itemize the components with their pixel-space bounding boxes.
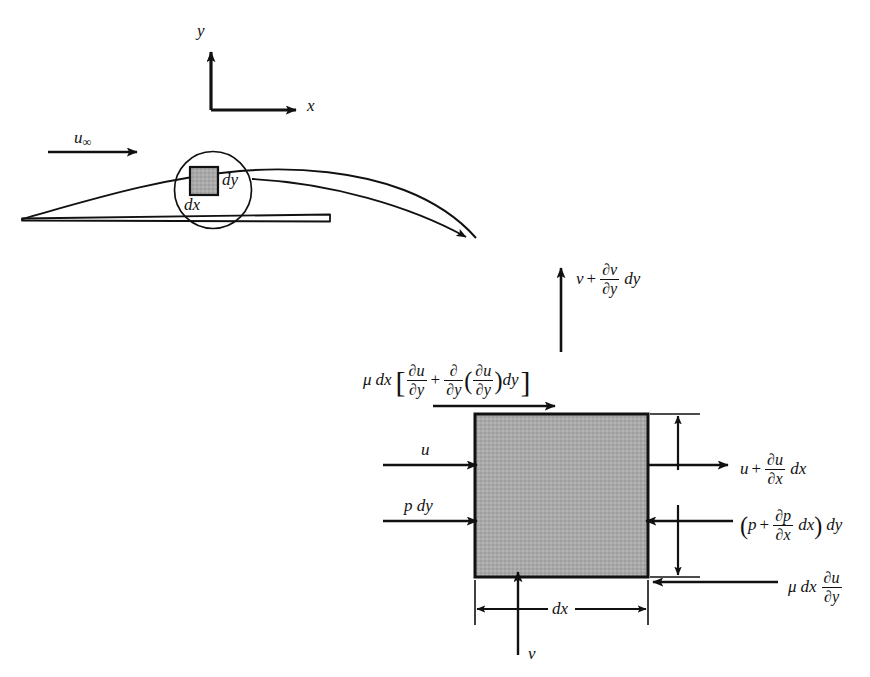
right-pressure-paren-close: ) bbox=[814, 512, 822, 539]
top-shear-paren-open: ( bbox=[464, 367, 472, 394]
top-shear-label: μdx[∂u∂y+∂∂y(∂u∂y)dy] bbox=[363, 363, 530, 399]
right-pressure-inner-tail: dx bbox=[798, 515, 814, 534]
bottom-shear-frac-den: ∂y bbox=[822, 587, 842, 605]
top-shear-fraction-1: ∂u∂y bbox=[407, 362, 427, 398]
top-shear-f3-num: ∂u bbox=[473, 362, 493, 379]
control-volume-element bbox=[475, 414, 648, 577]
right-pressure-label: (p+∂p∂xdx)dy bbox=[740, 508, 842, 544]
dy-dimension bbox=[650, 414, 700, 577]
right-pressure-tail: dy bbox=[826, 515, 842, 534]
freestream-velocity-label: u∞ bbox=[74, 129, 91, 149]
right-pressure-frac-num: ∂p bbox=[773, 507, 793, 524]
flat-plate bbox=[22, 215, 330, 222]
left-pressure-label: p dy bbox=[404, 497, 433, 514]
top-shear-plus: + bbox=[428, 370, 444, 389]
top-shear-mu: μ bbox=[363, 370, 372, 389]
right-velocity-label: u+∂u∂xdx bbox=[740, 452, 806, 488]
bottom-shear-frac-num: ∂u bbox=[822, 569, 842, 586]
plate-body bbox=[22, 215, 330, 222]
dx-dimension-label: dx bbox=[549, 600, 571, 617]
right-velocity-plus: + bbox=[749, 459, 765, 478]
top-shear-f3-den: ∂y bbox=[473, 380, 493, 398]
top-flux-frac-num: ∂v bbox=[600, 261, 619, 278]
freestream-symbol: u bbox=[74, 128, 83, 147]
top-flux-tail: dy bbox=[624, 269, 640, 288]
right-pressure-paren-open: ( bbox=[740, 512, 748, 539]
bottom-shear-mu: μ bbox=[788, 577, 797, 596]
boundary-layer-figure: y x u∞ dy dx v+∂v∂ydy μdx[∂u∂y+∂∂y(∂u∂y)… bbox=[0, 0, 870, 677]
y-axis-label: y bbox=[197, 22, 205, 39]
top-shear-f1-den: ∂y bbox=[407, 380, 427, 398]
freestream-subscript: ∞ bbox=[83, 135, 92, 149]
right-velocity-u: u bbox=[740, 459, 749, 478]
left-velocity-label: u bbox=[421, 441, 430, 458]
bottom-flux-label: v bbox=[528, 645, 536, 662]
figure-vector-layer bbox=[0, 0, 870, 677]
coordinate-axes bbox=[211, 52, 296, 110]
right-velocity-frac-num: ∂u bbox=[765, 451, 785, 468]
top-shear-f2-num: ∂ bbox=[444, 362, 463, 379]
top-flux-frac-den: ∂y bbox=[600, 279, 619, 297]
right-velocity-tail: dx bbox=[790, 459, 806, 478]
top-shear-bracket-close: ] bbox=[520, 365, 530, 398]
detail-dx-label: dx bbox=[184, 196, 200, 213]
top-flux-plus: + bbox=[584, 269, 600, 288]
top-shear-paren-close: ) bbox=[494, 367, 502, 394]
top-shear-fraction-3: ∂u∂y bbox=[473, 362, 493, 398]
right-pressure-frac-den: ∂x bbox=[773, 525, 793, 543]
right-velocity-frac-den: ∂x bbox=[765, 469, 785, 487]
right-pressure-p: p bbox=[748, 515, 757, 534]
detail-dy-label: dy bbox=[222, 171, 238, 188]
top-shear-dx: dx bbox=[376, 370, 392, 389]
right-pressure-fraction: ∂p∂x bbox=[773, 507, 793, 543]
callout-arrow bbox=[252, 179, 466, 237]
top-shear-f2-den: ∂y bbox=[444, 380, 463, 398]
top-flux-fraction: ∂v∂y bbox=[600, 261, 619, 297]
x-axis-label: x bbox=[307, 97, 315, 114]
top-flux-v: v bbox=[576, 269, 584, 288]
bottom-shear-fraction: ∂u∂y bbox=[822, 569, 842, 605]
top-shear-fraction-2: ∂∂y bbox=[444, 362, 463, 398]
bottom-shear-dx: dx bbox=[801, 577, 817, 596]
top-shear-f1-num: ∂u bbox=[407, 362, 427, 379]
top-shear-tail: dy bbox=[502, 370, 518, 389]
right-velocity-fraction: ∂u∂x bbox=[765, 451, 785, 487]
detail-element-square bbox=[190, 167, 218, 195]
top-flux-label: v+∂v∂ydy bbox=[576, 262, 640, 298]
bottom-shear-label: μdx∂u∂y bbox=[788, 570, 843, 606]
top-shear-bracket-open: [ bbox=[396, 365, 406, 398]
right-pressure-plus: + bbox=[757, 515, 773, 534]
